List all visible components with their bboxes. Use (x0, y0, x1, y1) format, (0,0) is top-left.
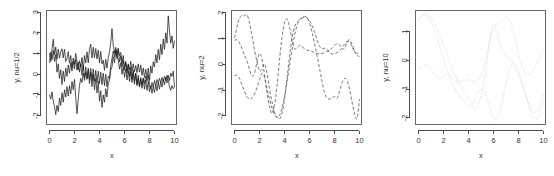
y-tick-label: -1 (400, 86, 409, 93)
y-axis-title: y, nu=10 (381, 53, 390, 81)
x-tick-label: 10 (355, 136, 363, 145)
series-group (49, 16, 174, 115)
y-tick-label: 0 (31, 72, 40, 76)
plot-svg: 0246810-2-1012xy, nu=2 (185, 0, 370, 176)
x-tick-label: 6 (492, 136, 496, 145)
plot-box (416, 10, 546, 125)
x-tick-label: 2 (72, 136, 76, 145)
x-tick-label: 2 (257, 136, 261, 145)
y-axis: -2-101 (400, 29, 410, 121)
figure-canvas: 0246810-2-10123xy, nu=1/2 0246810-2-1012… (0, 0, 554, 176)
series-line (419, 14, 544, 120)
series-line (234, 14, 359, 119)
plot-panel-2: 0246810-2-1012xy, nu=2 (185, 0, 370, 176)
x-tick-label: 2 (442, 136, 446, 145)
x-tick-label: 10 (170, 136, 178, 145)
y-tick-label: 2 (215, 11, 224, 15)
y-tick-label: -2 (215, 113, 224, 120)
series-line (234, 19, 359, 113)
y-tick-label: -1 (31, 92, 40, 99)
x-axis-title: x (295, 151, 299, 160)
plot-panel-1: 0246810-2-10123xy, nu=1/2 (0, 0, 185, 176)
y-tick-label: 2 (31, 31, 40, 35)
plot-box (232, 10, 362, 125)
x-tick-label: 4 (97, 136, 101, 145)
plot-panel-3: 0246810-2-101xy, nu=10 (369, 0, 554, 176)
x-axis-title: x (110, 151, 114, 160)
y-axis: -2-10123 (31, 10, 41, 119)
y-tick-label: -2 (31, 112, 40, 119)
series-line (234, 16, 359, 119)
x-axis: 0246810 (47, 131, 178, 145)
y-tick-label: -2 (400, 114, 409, 121)
x-tick-label: 6 (122, 136, 126, 145)
y-tick-label: 1 (31, 51, 40, 55)
x-tick-label: 8 (517, 136, 521, 145)
x-tick-label: 10 (540, 136, 548, 145)
y-axis-title: y, nu=2 (196, 55, 205, 79)
y-tick-label: 1 (400, 29, 409, 33)
x-tick-label: 0 (232, 136, 236, 145)
series-line (49, 16, 174, 81)
y-tick-label: 0 (400, 58, 409, 62)
y-tick-label: -1 (215, 87, 224, 94)
x-axis-title: x (479, 151, 483, 160)
y-tick-label: 1 (215, 36, 224, 40)
plot-svg: 0246810-2-10123xy, nu=1/2 (0, 0, 185, 176)
series-group (234, 14, 359, 119)
x-tick-label: 6 (307, 136, 311, 145)
plot-svg: 0246810-2-101xy, nu=10 (369, 0, 554, 176)
x-tick-label: 8 (332, 136, 336, 145)
y-tick-label: 3 (31, 10, 40, 14)
y-axis: -2-1012 (215, 11, 225, 120)
x-axis: 0246810 (417, 131, 548, 145)
series-line (419, 17, 544, 82)
x-tick-label: 4 (467, 136, 471, 145)
x-tick-label: 4 (282, 136, 286, 145)
y-tick-label: 0 (215, 62, 224, 66)
x-tick-label: 8 (147, 136, 151, 145)
y-axis-title: y, nu=1/2 (12, 52, 21, 82)
x-tick-label: 0 (47, 136, 51, 145)
series-line (419, 15, 544, 120)
x-tick-label: 0 (417, 136, 421, 145)
x-axis: 0246810 (232, 131, 363, 145)
series-group (419, 14, 544, 120)
